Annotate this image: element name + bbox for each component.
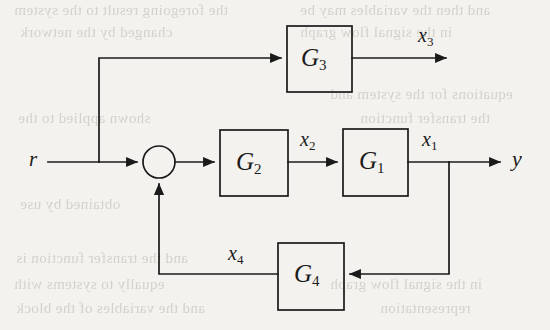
signal-label-x4-letter: x (228, 242, 237, 264)
block-label-g1-subscript: 1 (377, 160, 385, 176)
block-diagram-figure: the foregoing result to the system and t… (0, 0, 550, 330)
signal-label-x3-subscript: 3 (427, 34, 434, 49)
block-label-g4: G4 (294, 260, 320, 290)
block-label-g2: G2 (236, 148, 262, 178)
signal-label-x3: x3 (418, 24, 433, 50)
signal-label-x1: x1 (422, 128, 437, 154)
block-label-g3: G3 (301, 44, 327, 74)
wire-branch-to-g4 (350, 162, 449, 274)
block-label-g3-subscript: 3 (319, 57, 327, 73)
block-label-g1-letter: G (359, 147, 377, 174)
block-label-g4-letter: G (294, 260, 312, 287)
block-diagram-svg (0, 0, 550, 330)
diagram-graphics: G3 G2 G1 G4 r y x1 x2 x3 x4 (0, 0, 550, 330)
signal-label-x3-letter: x (418, 24, 427, 46)
signal-label-x4-subscript: 4 (237, 252, 244, 267)
signal-label-x1-letter: x (422, 128, 431, 150)
signal-label-x1-subscript: 1 (431, 138, 438, 153)
summing-junction (143, 146, 175, 178)
signal-label-y: y (512, 146, 522, 172)
block-label-g3-letter: G (301, 44, 319, 71)
signal-label-r: r (29, 147, 37, 172)
block-label-g2-subscript: 2 (254, 161, 262, 177)
signal-label-x2: x2 (300, 128, 315, 154)
wire-branch-to-g3 (99, 58, 281, 162)
block-label-g4-subscript: 4 (312, 273, 320, 289)
signal-label-x4: x4 (228, 242, 243, 268)
block-label-g2-letter: G (236, 148, 254, 175)
wire-g4-to-summer (159, 184, 278, 274)
block-label-g1: G1 (359, 147, 385, 177)
signal-label-x2-subscript: 2 (309, 138, 316, 153)
signal-label-x2-letter: x (300, 128, 309, 150)
